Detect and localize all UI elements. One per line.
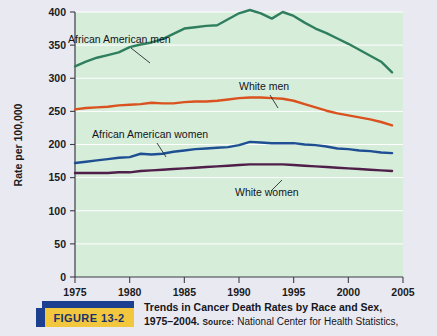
figure-badge-box: FIGURE 13-2 <box>36 308 134 327</box>
y-tick-label: 300 <box>48 72 66 84</box>
caption-line-2: 1975–2004. Source: National Center for H… <box>144 314 434 330</box>
x-tick-label: 2005 <box>391 286 415 298</box>
x-axis-ticks <box>75 277 403 283</box>
figure-caption-text: Trends in Cancer Death Rates by Race and… <box>144 300 434 330</box>
y-tick-label: 250 <box>48 105 66 117</box>
x-tick-label: 1975 <box>63 286 87 298</box>
series-label-white-women: White women <box>235 186 299 198</box>
caption-years: 1975–2004. <box>144 315 199 327</box>
y-tick-label: 100 <box>48 205 66 217</box>
x-tick-label: 1985 <box>173 286 197 298</box>
figure-badge-top-bar <box>42 301 134 308</box>
caption-source-text: National Center for Health Statistics, <box>237 316 398 327</box>
figure-container: 050100150200250300350400 197519801985199… <box>0 0 437 336</box>
y-tick-label: 400 <box>48 6 66 18</box>
x-axis-tick-labels: 1975198019851990199520002005 <box>63 286 415 298</box>
y-axis-ticks <box>70 12 75 277</box>
x-tick-label: 1980 <box>118 286 142 298</box>
y-tick-label: 150 <box>48 171 66 183</box>
y-axis-tick-labels: 050100150200250300350400 <box>48 6 66 283</box>
y-tick-label: 50 <box>54 238 66 250</box>
y-tick-label: 0 <box>60 271 66 283</box>
figure-caption-block: FIGURE 13-2 Trends in Cancer Death Rates… <box>0 299 437 336</box>
caption-source-label: Source: <box>202 318 234 327</box>
x-tick-label: 2000 <box>337 286 361 298</box>
series-label-white-men: White men <box>239 80 289 92</box>
y-axis-title: Rate per 100,000 <box>12 103 24 186</box>
figure-badge-left-accent <box>36 308 45 327</box>
figure-number-badge: FIGURE 13-2 <box>36 301 134 332</box>
figure-badge-label: FIGURE 13-2 <box>45 312 124 324</box>
series-label-african-american-men: African American men <box>68 33 171 45</box>
cancer-death-rate-line-chart: 050100150200250300350400 197519801985199… <box>0 0 437 300</box>
x-tick-label: 1990 <box>227 286 251 298</box>
caption-line-1: Trends in Cancer Death Rates by Race and… <box>144 300 434 314</box>
y-tick-label: 200 <box>48 138 66 150</box>
y-tick-label: 350 <box>48 39 66 51</box>
x-tick-label: 1995 <box>282 286 306 298</box>
series-label-african-american-women: African American women <box>92 128 208 140</box>
